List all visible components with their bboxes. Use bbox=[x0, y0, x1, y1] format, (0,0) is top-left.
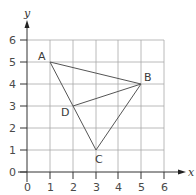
svg-text:1: 1 bbox=[9, 144, 16, 157]
segment-BC bbox=[96, 84, 141, 150]
x-axis-arrow-icon bbox=[178, 170, 186, 175]
svg-text:0: 0 bbox=[24, 181, 31, 194]
point-label-A: A bbox=[38, 50, 46, 63]
svg-text:5: 5 bbox=[9, 56, 16, 69]
coordinate-diagram: y x 0 1 2 3 4 5 6 0 1 2 3 4 5 6 A B C D bbox=[0, 0, 196, 195]
svg-text:5: 5 bbox=[138, 181, 145, 194]
x-axis-label: x bbox=[188, 166, 195, 179]
svg-text:1: 1 bbox=[47, 181, 54, 194]
x-tick-labels: 0 1 2 3 4 5 6 bbox=[24, 181, 168, 194]
svg-text:4: 4 bbox=[9, 78, 16, 91]
svg-text:4: 4 bbox=[115, 181, 122, 194]
segment-BD bbox=[73, 84, 141, 106]
point-label-B: B bbox=[144, 71, 152, 84]
svg-text:3: 3 bbox=[9, 100, 16, 113]
svg-text:3: 3 bbox=[93, 181, 100, 194]
y-axis-arrow-icon bbox=[25, 20, 30, 28]
y-tick-labels: 0 1 2 3 4 5 6 bbox=[9, 34, 16, 179]
point-label-D: D bbox=[61, 106, 69, 119]
point-label-C: C bbox=[95, 153, 103, 166]
segment-AB bbox=[50, 62, 141, 84]
svg-text:2: 2 bbox=[9, 122, 16, 135]
y-axis-label: y bbox=[23, 7, 31, 20]
svg-text:0: 0 bbox=[9, 166, 16, 179]
svg-text:6: 6 bbox=[9, 34, 16, 47]
svg-text:2: 2 bbox=[70, 181, 77, 194]
svg-text:6: 6 bbox=[161, 181, 168, 194]
